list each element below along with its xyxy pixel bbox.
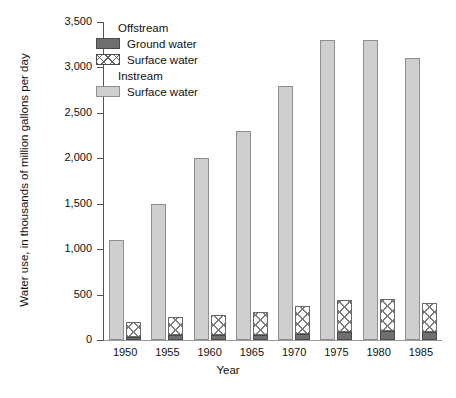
bar-offstream-stack [211, 315, 226, 340]
y-tick-label: 3,500 [40, 16, 92, 27]
bar-offstream-stack [337, 300, 352, 340]
bar-segment-ground-water [168, 335, 183, 340]
y-tick-mark [97, 295, 104, 296]
y-tick-mark [97, 340, 104, 341]
bar-instream-surface-water [405, 58, 420, 340]
legend-swatch-instream-surface-water-icon [96, 86, 120, 97]
bar-instream-surface-water [363, 40, 378, 340]
bar-offstream-stack [422, 303, 437, 340]
bar-segment-offstream-surface-water [211, 315, 226, 335]
bar-segment-ground-water [337, 332, 352, 340]
bar-segment-offstream-surface-water [422, 303, 437, 332]
bar-segment-ground-water [380, 331, 395, 340]
bar-instream-surface-water [278, 86, 293, 340]
legend-label-offstream-surface-water: Surface water [127, 54, 198, 66]
bar-instream-surface-water [109, 240, 124, 340]
chart-legend: Offstream Ground water Surface water Ins… [96, 22, 276, 100]
bar-segment-offstream-surface-water [168, 317, 183, 335]
bar-instream-surface-water [236, 131, 251, 340]
legend-swatch-ground-water-icon [96, 38, 120, 49]
legend-item-offstream-ground-water: Ground water [96, 36, 276, 51]
bar-segment-ground-water [295, 334, 310, 340]
bar-segment-offstream-surface-water [253, 312, 268, 335]
bar-instream-surface-water [151, 204, 166, 340]
y-tick-mark [97, 204, 104, 205]
bar-segment-ground-water [126, 337, 141, 340]
x-axis-line [104, 340, 442, 341]
bar-segment-ground-water [211, 335, 226, 340]
bar-offstream-stack [253, 312, 268, 340]
legend-item-offstream-surface-water: Surface water [96, 52, 276, 67]
bar-offstream-stack [295, 306, 310, 340]
y-tick-label: 1,500 [40, 198, 92, 209]
y-axis-title: Water use, in thousands of million gallo… [18, 30, 30, 330]
legend-label-ground-water: Ground water [127, 38, 197, 50]
legend-swatch-offstream-surface-water-icon [96, 54, 120, 65]
bar-segment-offstream-surface-water [380, 299, 395, 332]
bar-offstream-stack [380, 299, 395, 340]
y-tick-label: 500 [40, 289, 92, 300]
x-axis-title: Year [0, 364, 456, 376]
bar-segment-ground-water [422, 332, 437, 340]
bar-segment-offstream-surface-water [295, 306, 310, 333]
legend-item-instream-surface-water: Surface water [96, 84, 276, 99]
bar-segment-ground-water [253, 335, 268, 340]
bar-segment-offstream-surface-water [337, 300, 352, 332]
bar-segment-offstream-surface-water [126, 322, 141, 337]
legend-group-instream: Instream [118, 70, 276, 82]
y-tick-label: 1,000 [40, 243, 92, 254]
y-tick-label: 3,000 [40, 61, 92, 72]
legend-group-offstream: Offstream [118, 22, 276, 34]
legend-label-instream-surface-water: Surface water [127, 86, 198, 98]
y-tick-mark [97, 113, 104, 114]
water-use-bar-chart: Water use, in thousands of million gallo… [0, 0, 456, 398]
y-tick-label: 2,500 [40, 107, 92, 118]
bar-offstream-stack [168, 317, 183, 340]
x-tick-label: 1985 [395, 346, 447, 358]
bar-instream-surface-water [194, 158, 209, 340]
y-tick-label: 0 [40, 334, 92, 345]
bar-offstream-stack [126, 322, 141, 340]
y-tick-mark [97, 249, 104, 250]
bar-instream-surface-water [320, 40, 335, 340]
y-tick-mark [97, 158, 104, 159]
y-tick-label: 2,000 [40, 152, 92, 163]
